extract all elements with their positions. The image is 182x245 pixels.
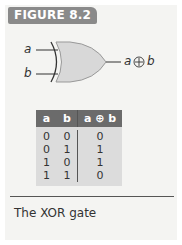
table-row: 0 1 1 xyxy=(36,143,122,156)
table-row: 1 0 1 xyxy=(36,156,122,169)
cell: 0 xyxy=(57,156,78,169)
cell: 1 xyxy=(36,156,57,169)
cell: 0 xyxy=(57,130,78,143)
divider xyxy=(10,196,174,197)
input-a-label: a xyxy=(24,42,31,56)
cell: 1 xyxy=(57,169,78,182)
figure-caption: The XOR gate xyxy=(14,206,96,220)
header-a: a xyxy=(36,110,57,127)
truth-table-header: a b a ⊕ b xyxy=(36,110,122,127)
table-row: 1 1 0 xyxy=(36,169,122,186)
cell: 1 xyxy=(78,143,122,156)
header-output: a ⊕ b xyxy=(78,110,122,127)
cell: 1 xyxy=(36,169,57,182)
cell: 0 xyxy=(36,130,57,143)
cell: 1 xyxy=(57,143,78,156)
cell: 1 xyxy=(78,156,122,169)
truth-table: a b a ⊕ b 0 0 0 0 1 1 1 0 1 1 1 0 xyxy=(36,110,122,186)
input-b-label: b xyxy=(24,66,32,80)
cell: 0 xyxy=(78,130,122,143)
output-a-label: a xyxy=(124,54,131,68)
header-b: b xyxy=(57,110,78,127)
output-b-label: b xyxy=(147,54,155,68)
cell: 0 xyxy=(36,143,57,156)
table-row: 0 0 0 xyxy=(36,127,122,143)
cell: 0 xyxy=(78,169,122,182)
